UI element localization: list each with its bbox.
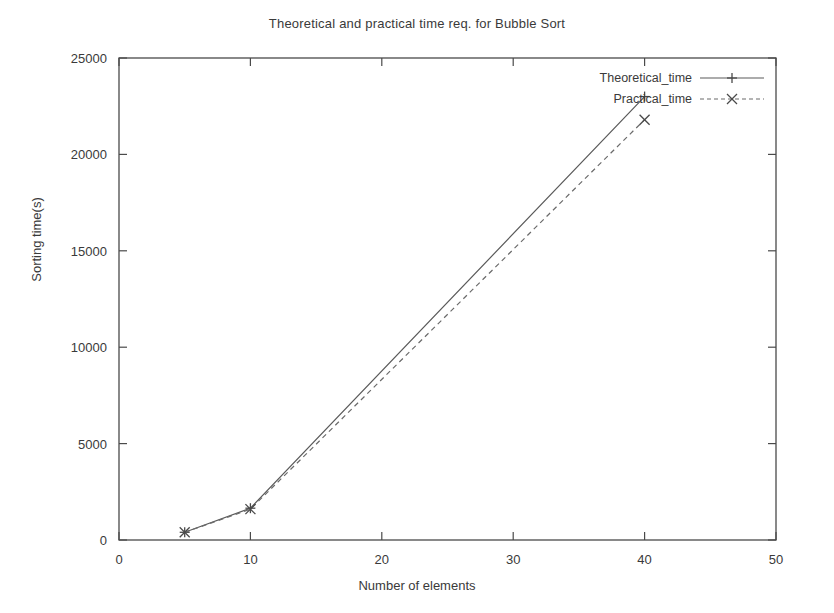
y-tick-label: 20000	[71, 147, 107, 162]
x-tick-label: 50	[769, 552, 783, 567]
y-tick-label: 15000	[71, 244, 107, 259]
x-axis-ticks: 01020304050	[115, 58, 783, 567]
data-series-layer	[180, 92, 650, 538]
y-tick-label: 0	[100, 533, 107, 548]
legend-label: Practical_time	[614, 92, 693, 106]
y-tick-label: 25000	[71, 51, 107, 66]
series-practical-time	[180, 115, 650, 538]
y-tick-label: 5000	[78, 437, 107, 452]
plot-frame	[119, 58, 776, 540]
chart-legend: Theoretical_timePractical_time	[600, 71, 764, 106]
y-tick-label: 10000	[71, 340, 107, 355]
x-tick-label: 40	[637, 552, 651, 567]
series-line	[185, 97, 645, 533]
chart-container: Theoretical and practical time req. for …	[0, 0, 834, 613]
plot-svg: 0500010000150002000025000 01020304050 Th…	[0, 0, 834, 613]
x-tick-label: 30	[506, 552, 520, 567]
legend-label: Theoretical_time	[600, 71, 692, 85]
x-tick-label: 10	[243, 552, 257, 567]
x-tick-label: 20	[375, 552, 389, 567]
x-tick-label: 0	[115, 552, 122, 567]
series-line	[185, 120, 645, 533]
series-theoretical-time	[180, 92, 650, 538]
y-axis-ticks: 0500010000150002000025000	[71, 51, 776, 548]
